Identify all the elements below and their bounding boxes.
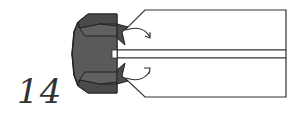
white-body xyxy=(117,10,286,97)
origami-diagram-step: 14 xyxy=(0,0,308,123)
white-flap-lower xyxy=(117,58,286,97)
center-gap xyxy=(112,50,117,58)
center-strip xyxy=(117,50,286,58)
step-number: 14 xyxy=(17,74,62,108)
